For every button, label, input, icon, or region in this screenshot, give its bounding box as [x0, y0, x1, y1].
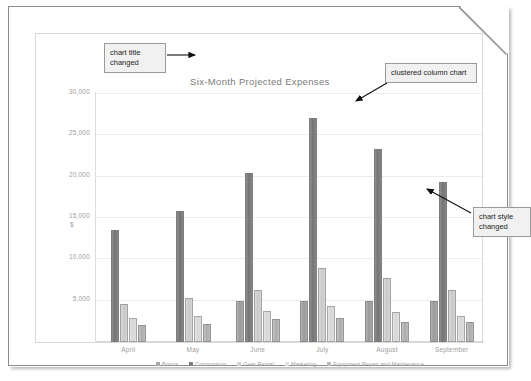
bar[interactable]: [448, 290, 456, 342]
bar-group: [96, 94, 161, 342]
legend-label: Equipment Repair and Maintenance: [333, 361, 424, 367]
legend-label: Marketing: [291, 361, 316, 367]
bar-group: [225, 94, 290, 342]
y-axis-tick-label: 5,000: [73, 294, 90, 301]
x-axis-labels: AprilMayJuneJulyAugustSeptember: [96, 346, 484, 353]
bar[interactable]: [203, 324, 211, 342]
y-axis-tick-label: 15,000: [69, 212, 90, 219]
bar-groups: [96, 94, 484, 342]
bar[interactable]: [309, 118, 317, 342]
y-axis-tick-label: 10,000: [69, 253, 90, 260]
legend-swatch-icon: [189, 362, 193, 366]
callout-chart-title-changed: chart title changed: [104, 43, 166, 73]
bar[interactable]: [392, 312, 400, 342]
callout-clustered-column-chart: clustered column chart: [385, 63, 477, 83]
y-axis-currency-symbol: $: [70, 221, 74, 228]
bar[interactable]: [129, 318, 137, 342]
bar[interactable]: [383, 278, 391, 342]
legend-item[interactable]: Gear Rental: [237, 361, 274, 367]
bar-group: [161, 94, 226, 342]
x-axis-tick-label: April: [96, 346, 161, 353]
plot-area: 30,00025,00020,00015,00010,0005,000: [96, 94, 484, 342]
bar-group: [355, 94, 420, 342]
bar[interactable]: [245, 173, 253, 342]
bar[interactable]: [185, 298, 193, 342]
bar[interactable]: [272, 319, 280, 342]
bar[interactable]: [263, 311, 271, 342]
bar[interactable]: [466, 322, 474, 342]
y-axis-tick-label: 20,000: [69, 170, 90, 177]
x-axis-tick-label: June: [225, 346, 290, 353]
legend-label: Commission: [195, 361, 226, 367]
bar[interactable]: [374, 149, 382, 342]
x-axis-tick-label: August: [355, 346, 420, 353]
bar[interactable]: [318, 268, 326, 342]
bar[interactable]: [236, 301, 244, 342]
bar[interactable]: [430, 301, 438, 342]
legend-item[interactable]: Bonus: [156, 361, 178, 367]
document-page: Six-Month Projected Expenses $ 30,00025,…: [8, 6, 508, 366]
bar[interactable]: [336, 318, 344, 342]
bar[interactable]: [300, 301, 308, 342]
bar[interactable]: [138, 325, 146, 342]
bar[interactable]: [254, 290, 262, 342]
bar[interactable]: [401, 322, 409, 342]
legend-item[interactable]: Equipment Repair and Maintenance: [327, 361, 424, 367]
y-axis-tick-label: 30,000: [69, 88, 90, 95]
legend-swatch-icon: [156, 362, 160, 366]
bar[interactable]: [439, 182, 447, 342]
legend-label: Bonus: [162, 361, 178, 367]
legend-swatch-icon: [327, 362, 331, 366]
legend-item[interactable]: Commission: [189, 361, 226, 367]
bar[interactable]: [327, 306, 335, 342]
chart-title: Six-Month Projected Expenses: [190, 76, 330, 87]
legend-label: Gear Rental: [243, 361, 274, 367]
legend-swatch-icon: [285, 362, 289, 366]
x-axis-tick-label: July: [290, 346, 355, 353]
x-axis-tick-label: September: [419, 346, 484, 353]
bar[interactable]: [111, 230, 119, 342]
bar[interactable]: [120, 304, 128, 342]
bar[interactable]: [194, 316, 202, 342]
bar-group: [290, 94, 355, 342]
legend-item[interactable]: Marketing: [285, 361, 316, 367]
legend-swatch-icon: [237, 362, 241, 366]
bar[interactable]: [365, 301, 373, 342]
callout-chart-style-changed: chart style changed: [473, 207, 531, 237]
chart-legend[interactable]: BonusCommissionGear RentalMarketingEquip…: [96, 361, 484, 367]
bar[interactable]: [176, 211, 184, 342]
x-axis-tick-label: May: [161, 346, 226, 353]
y-axis-tick-label: 25,000: [69, 129, 90, 136]
bar[interactable]: [457, 316, 465, 342]
